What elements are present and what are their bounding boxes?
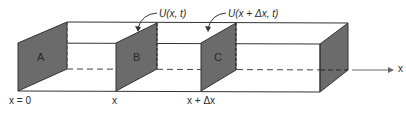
position-label-origin: x = 0: [9, 96, 31, 106]
panel-label-b: B: [133, 52, 140, 63]
annotation-u-x-dx-t: U(x + Δx, t): [228, 9, 278, 19]
axis-label-x: x: [398, 64, 403, 74]
panel-label-c: C: [214, 52, 222, 63]
position-label-x: x: [112, 96, 117, 106]
end-face: [320, 23, 348, 92]
x-axis-arrow: [352, 67, 394, 73]
bar-diagram: A B C U(x, t) U(x + Δx, t) x = 0 x x + Δ…: [0, 0, 406, 116]
panel-label-a: A: [37, 52, 44, 63]
position-label-x-plus-dx: x + Δx: [187, 96, 215, 106]
annotation-u-x-t: U(x, t): [159, 9, 186, 19]
